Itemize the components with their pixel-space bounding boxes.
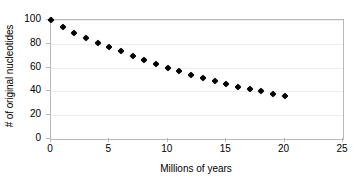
y-tick-label-60: 60 bbox=[2, 62, 46, 72]
chart-container: # of original nucleotides 020406080100 0… bbox=[0, 0, 356, 183]
data-point bbox=[246, 85, 253, 92]
data-point bbox=[164, 64, 171, 71]
data-point bbox=[141, 57, 148, 64]
x-tick-label-10: 10 bbox=[147, 143, 187, 154]
y-tick-label-40: 40 bbox=[2, 85, 46, 95]
data-point bbox=[258, 88, 265, 95]
x-tick-mark-15 bbox=[225, 138, 226, 142]
x-tick-mark-25 bbox=[342, 138, 343, 142]
data-point bbox=[176, 68, 183, 75]
x-tick-mark-10 bbox=[167, 138, 168, 142]
x-tick-label-15: 15 bbox=[205, 143, 245, 154]
y-tick-label-80: 80 bbox=[2, 38, 46, 48]
data-point bbox=[234, 83, 241, 90]
data-point bbox=[118, 47, 125, 54]
y-axis-tick-labels: 020406080100 bbox=[0, 19, 46, 138]
x-tick-mark-20 bbox=[284, 138, 285, 142]
data-point bbox=[59, 24, 66, 31]
data-point bbox=[71, 30, 78, 37]
x-tick-label-25: 25 bbox=[322, 143, 356, 154]
x-tick-mark-0 bbox=[50, 138, 51, 142]
data-point bbox=[82, 34, 89, 41]
y-tick-label-0: 0 bbox=[2, 133, 46, 143]
data-point bbox=[153, 60, 160, 67]
x-tick-label-0: 0 bbox=[30, 143, 70, 154]
data-point bbox=[47, 16, 54, 23]
x-axis-tick-labels: 0510152025 bbox=[50, 143, 342, 157]
data-point bbox=[281, 93, 288, 100]
data-point bbox=[211, 77, 218, 84]
x-axis-title: Millions of years bbox=[50, 163, 342, 175]
data-point bbox=[199, 75, 206, 82]
plot-area bbox=[50, 19, 344, 140]
data-point bbox=[129, 52, 136, 59]
data-series-nucleotides bbox=[51, 20, 343, 139]
x-tick-label-5: 5 bbox=[88, 143, 128, 154]
data-point bbox=[269, 90, 276, 97]
data-point bbox=[223, 81, 230, 88]
y-tick-label-100: 100 bbox=[2, 14, 46, 24]
y-tick-label-20: 20 bbox=[2, 109, 46, 119]
x-tick-mark-5 bbox=[108, 138, 109, 142]
x-tick-label-20: 20 bbox=[264, 143, 304, 154]
data-point bbox=[94, 39, 101, 46]
data-point bbox=[106, 44, 113, 51]
data-point bbox=[188, 71, 195, 78]
